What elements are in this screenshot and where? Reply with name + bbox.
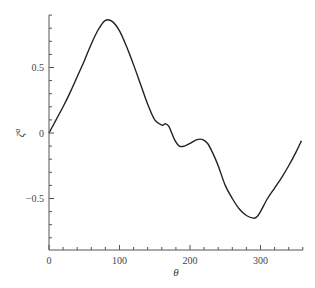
data-series-line: [49, 20, 301, 218]
axis-labels: −0.500.50100200300θζa: [13, 62, 268, 278]
line-chart: −0.500.50100200300θζa: [0, 0, 315, 288]
x-tick-label: 200: [183, 255, 198, 266]
y-tick-label: 0: [39, 128, 44, 139]
plot-area: [49, 20, 301, 218]
y-tick-label: 0.5: [32, 62, 45, 73]
x-tick-label: 0: [47, 255, 52, 266]
x-tick-label: 100: [112, 255, 127, 266]
y-tick-label: −0.5: [26, 193, 44, 204]
x-axis-label: θ: [173, 266, 179, 278]
y-axis-label: ζa: [13, 129, 27, 137]
axes: [49, 15, 303, 250]
y-axis-label-superscript: a: [13, 129, 22, 133]
x-tick-label: 300: [253, 255, 268, 266]
